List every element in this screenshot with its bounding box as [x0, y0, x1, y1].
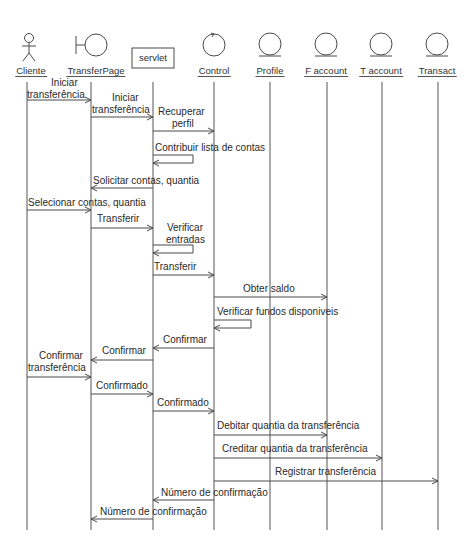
message-label: Confirmar transferência	[28, 350, 86, 374]
message-label: Debitar quantia da transferência	[217, 420, 359, 432]
object-name-cliente: Cliente	[15, 65, 47, 77]
object-name-profile: Profile	[256, 65, 285, 77]
message-label: Recuperar perfil	[158, 106, 205, 130]
entity-icon	[259, 33, 281, 56]
message-label: Registrar transferência	[275, 466, 376, 478]
message-label: Contribuir lista de contas	[155, 142, 265, 154]
boundary-icon	[76, 34, 107, 56]
object-name-transferpage: TransferPage	[66, 65, 125, 77]
message-label: Obter saldo	[243, 283, 295, 295]
message-label: Verificar fundos disponiveis	[217, 306, 338, 318]
control-icon	[203, 33, 225, 56]
entity-icon	[315, 33, 337, 56]
message-label: Confirmar	[163, 334, 207, 346]
message-label: Transferir	[154, 261, 196, 273]
entity-icon	[426, 33, 448, 56]
object-name-faccount: F account	[304, 65, 348, 77]
message-label: Solicitar contas, quantia	[93, 175, 199, 187]
message-label: Número de confirmação	[100, 506, 207, 518]
sequence-diagram-canvas: Cliente TransferPage servlet Control Pro…	[0, 0, 467, 555]
object-name-servlet: servlet	[139, 52, 167, 64]
message-label: Creditar quantia da transferência	[222, 443, 368, 455]
message-label: Confirmado	[157, 397, 209, 409]
message-label: Confirmar	[102, 345, 146, 357]
message-label: Número de confirmação	[161, 487, 268, 499]
message-label: Confirmado	[96, 380, 148, 392]
entity-icon	[370, 33, 392, 56]
message-label: Iniciar transferência	[108, 92, 150, 116]
message-label: Transferir	[97, 213, 139, 225]
message-label: Iniciar transferência	[44, 77, 85, 101]
message-label: Selecionar contas, quantia	[28, 197, 146, 209]
object-name-control: Control	[198, 65, 231, 77]
object-name-taccount: T account	[359, 65, 403, 77]
object-name-transact: Transact	[418, 65, 457, 77]
message-label: Verificar entradas	[165, 222, 205, 246]
actor-icon	[22, 34, 36, 62]
